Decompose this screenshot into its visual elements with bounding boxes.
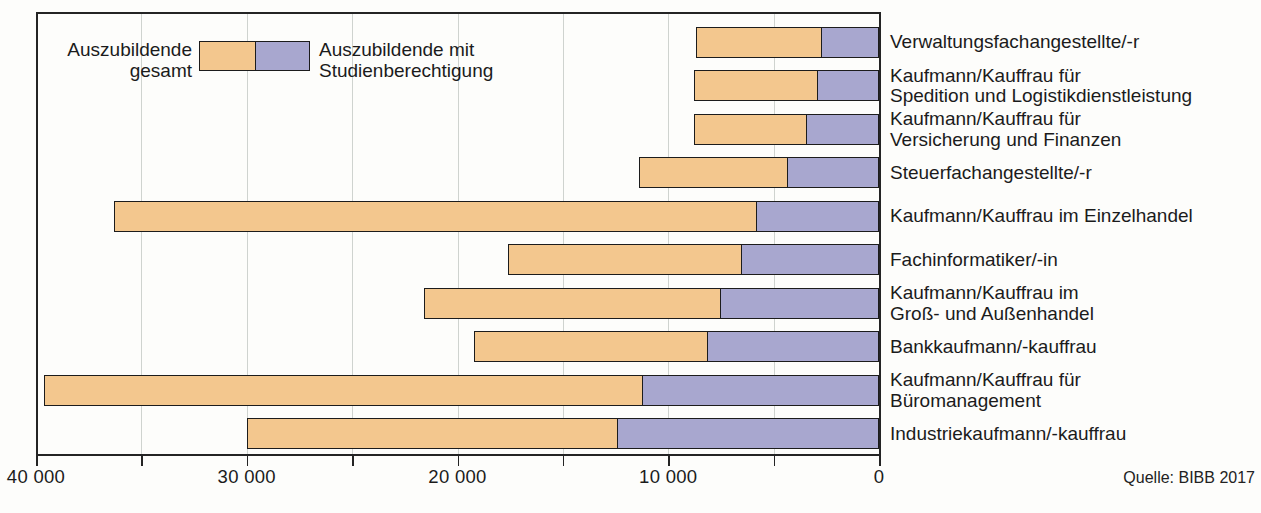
axis-tick [879, 456, 881, 466]
axis-tick-label: 40 000 [0, 466, 81, 488]
bar-qualification-segment [741, 245, 878, 274]
bar-total [474, 331, 879, 362]
bar-qualification-segment [821, 28, 878, 57]
bar-qualification-segment [787, 158, 878, 187]
axis-tick-label: 0 [834, 466, 924, 488]
axis-tick [774, 456, 776, 466]
bar-qualification-segment [617, 419, 878, 448]
bar-qualification-segment [806, 115, 878, 144]
bar-total [44, 375, 879, 406]
category-label: Kaufmann/Kauffrau für Büromanagement [890, 370, 1081, 411]
bar-total [247, 418, 879, 449]
bar-total [694, 114, 879, 145]
axis-tick-label: 20 000 [413, 466, 503, 488]
legend-label-total: Auszubildende gesamt [38, 39, 192, 81]
plot-area: Auszubildende gesamt Auszubildende mit S… [36, 12, 881, 456]
axis-tick [247, 456, 249, 466]
category-label: Industriekaufmann/-kauffrau [890, 424, 1126, 445]
legend-swatch-total [200, 42, 255, 70]
bar-total [114, 201, 879, 232]
category-label: Kaufmann/Kauffrau für Spedition und Logi… [890, 65, 1192, 106]
category-label: Kaufmann/Kauffrau im Groß- und Außenhand… [890, 283, 1094, 324]
bar-total [508, 244, 879, 275]
legend-swatch-qualification [255, 42, 310, 70]
category-label: Kaufmann/Kauffrau für Versicherung und F… [890, 109, 1121, 150]
axis-tick [36, 456, 38, 466]
bar-qualification-segment [707, 332, 878, 361]
bar-total [694, 70, 879, 101]
bar-qualification-segment [756, 202, 878, 231]
bar-total [696, 27, 879, 58]
bar-total [639, 157, 879, 188]
legend-swatch [199, 41, 310, 71]
category-label: Steuerfachangestellte/-r [890, 162, 1092, 183]
axis-tick [668, 456, 670, 466]
category-label: Verwaltungsfachangestellte/-r [890, 32, 1139, 53]
axis-tick [141, 456, 143, 466]
axis-tick [352, 456, 354, 466]
source-note: Quelle: BIBB 2017 [1123, 469, 1255, 487]
axis-tick-label: 30 000 [202, 466, 292, 488]
bar-qualification-segment [817, 71, 878, 100]
bar-chart-figure: Auszubildende gesamt Auszubildende mit S… [0, 0, 1261, 513]
bar-total [424, 288, 879, 319]
bar-qualification-segment [720, 289, 878, 318]
legend-label-qualification: Auszubildende mit Studienberechtigung [319, 39, 493, 81]
axis-tick-label: 10 000 [623, 466, 713, 488]
axis-tick [563, 456, 565, 466]
bar-qualification-segment [642, 376, 878, 405]
category-label: Fachinformatiker/-in [890, 250, 1058, 271]
category-label: Bankkaufmann/-kauffrau [890, 337, 1097, 358]
category-label: Kaufmann/Kauffrau im Einzelhandel [890, 206, 1193, 227]
axis-tick [458, 456, 460, 466]
